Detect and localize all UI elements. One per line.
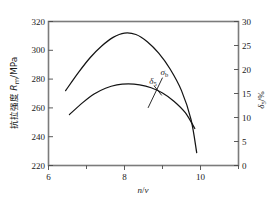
data-curves [66, 33, 197, 153]
left-axis-label-cn: 抗拉强度 [9, 91, 19, 130]
left-axis-label: 抗拉强度 Rm/MPa [9, 57, 21, 130]
plot-frame [49, 22, 239, 166]
series-label-delta-sub: 5 [153, 80, 156, 87]
x-axis-tick-labels: 6 8 10 [46, 172, 205, 182]
curve-sigma-b [66, 33, 197, 153]
figure-container: 220 240 260 280 300 320 0 5 10 15 20 25 … [0, 0, 274, 199]
chart-svg: 220 240 260 280 300 320 0 5 10 15 20 25 … [0, 0, 274, 199]
right-tick-20: 20 [242, 65, 252, 75]
right-axis-tick-labels: 0 5 10 15 20 25 30 [242, 17, 252, 171]
right-axis-label: δ5/% [256, 91, 267, 109]
svg-text:n/v: n/v [137, 185, 148, 195]
svg-text:抗拉强度 Rm/MPa: 抗拉强度 Rm/MPa [9, 57, 21, 130]
left-axis-tick-labels: 220 240 260 280 300 320 [32, 17, 46, 171]
series-label-sigma-b: σb [161, 67, 169, 78]
series-label-delta-5: δ5 [149, 76, 156, 87]
left-tick-220: 220 [32, 161, 46, 171]
left-tick-320: 320 [32, 17, 46, 27]
svg-text:δ5/%: δ5/% [256, 91, 267, 109]
x-axis-label: n/v [137, 185, 148, 195]
left-tick-300: 300 [32, 45, 46, 55]
left-tick-260: 260 [32, 103, 46, 113]
right-tick-10: 10 [242, 113, 252, 123]
x-tick-8: 8 [122, 172, 127, 182]
x-tick-6: 6 [46, 172, 51, 182]
curve-delta-5 [69, 84, 194, 129]
left-tick-280: 280 [32, 74, 46, 84]
series-label-sigma-sub: b [165, 71, 168, 78]
right-tick-25: 25 [242, 41, 252, 51]
x-tick-10: 10 [196, 172, 206, 182]
right-axis-label-unit: /% [256, 91, 266, 102]
left-tick-240: 240 [32, 132, 46, 142]
right-tick-5: 5 [242, 137, 247, 147]
right-tick-30: 30 [242, 17, 252, 27]
right-tick-0: 0 [242, 161, 247, 171]
x-axis-label-v: v [145, 185, 149, 195]
left-axis-label-unit: /MPa [9, 57, 19, 78]
right-tick-15: 15 [242, 89, 252, 99]
